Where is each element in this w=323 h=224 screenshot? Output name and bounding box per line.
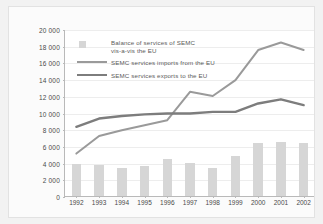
x-tick-label: 1995 (137, 199, 151, 206)
chart-figure: 02 0004 0006 0008 00010 00012 00014 0001… (0, 0, 323, 224)
y-tick-label: 14 000 (39, 77, 60, 84)
y-tick-label: 2 000 (43, 177, 60, 184)
y-tick-mark (63, 197, 65, 198)
x-tick-label: 1992 (69, 199, 83, 206)
legend-swatch (77, 59, 111, 63)
chart-legend: Balance of services of SEMCvis-a-vis the… (77, 39, 257, 84)
y-tick-label: 20 000 (39, 27, 60, 34)
x-tick-mark (213, 196, 214, 198)
chart-frame: 02 0004 0006 0008 00010 00012 00014 0001… (8, 6, 315, 218)
legend-swatch (77, 39, 111, 48)
x-tick-mark (304, 196, 305, 198)
x-tick-label: 2002 (296, 199, 310, 206)
y-tick-label: 0 (56, 194, 60, 201)
y-tick-label: 16 000 (39, 60, 60, 67)
x-tick-mark (76, 196, 77, 198)
x-tick-mark (122, 196, 123, 198)
y-tick-label: 6 000 (43, 143, 60, 150)
legend-label: Balance of services of SEMCvis-a-vis the… (111, 39, 195, 54)
x-tick-label: 1993 (92, 199, 106, 206)
x-tick-label: 1997 (183, 199, 197, 206)
x-tick-mark (235, 196, 236, 198)
x-tick-mark (258, 196, 259, 198)
y-tick-label: 8 000 (43, 127, 60, 134)
legend-label: SEMC services exports to the EU (111, 72, 207, 80)
y-tick-label: 18 000 (39, 43, 60, 50)
y-tick-label: 12 000 (39, 93, 60, 100)
line-exports-to-eu (76, 99, 303, 127)
x-tick-label: 1999 (228, 199, 242, 206)
x-tick-mark (145, 196, 146, 198)
legend-item: SEMC services imports from the EU (77, 59, 257, 67)
x-tick-mark (281, 196, 282, 198)
x-tick-mark (99, 196, 100, 198)
x-tick-mark (190, 196, 191, 198)
x-tick-label: 2000 (251, 199, 265, 206)
legend-box-swatch-icon (79, 41, 86, 48)
x-tick-label: 2001 (274, 199, 288, 206)
legend-line-swatch-icon (77, 74, 107, 76)
x-tick-label: 1998 (205, 199, 219, 206)
legend-item: SEMC services exports to the EU (77, 72, 257, 80)
x-tick-label: 1994 (115, 199, 129, 206)
legend-line-swatch-icon (77, 61, 107, 63)
legend-swatch (77, 72, 111, 76)
x-tick-label: 1996 (160, 199, 174, 206)
legend-label: SEMC services imports from the EU (111, 59, 215, 67)
y-tick-label: 10 000 (39, 110, 60, 117)
y-tick-label: 4 000 (43, 160, 60, 167)
legend-item: Balance of services of SEMCvis-a-vis the… (77, 39, 257, 54)
x-tick-mark (167, 196, 168, 198)
